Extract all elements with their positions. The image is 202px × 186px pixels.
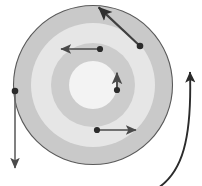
vector-lower-right-origin-dot: [94, 127, 100, 133]
concentric-rings-group: [14, 6, 173, 165]
rotating-disk-diagram: [0, 0, 202, 186]
vector-center-up-origin-dot: [114, 87, 120, 93]
diagram-canvas: [0, 0, 202, 186]
vector-left-down-origin-dot: [12, 88, 19, 95]
vector-upper-left-origin-dot: [97, 46, 103, 52]
vector-upper-right-diagonal-origin-dot: [137, 43, 144, 50]
core-disk-circle: [69, 61, 117, 109]
